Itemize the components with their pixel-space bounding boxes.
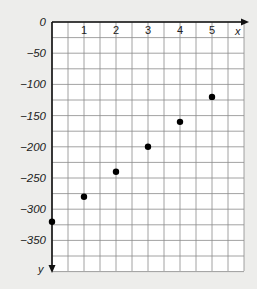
y-tick-labels: 0−50−100−150−200−250−300−350: [20, 16, 47, 246]
y-tick-label: −200: [20, 141, 47, 153]
x-tick-label: 2: [113, 24, 119, 36]
data-point: [177, 119, 183, 125]
data-point: [209, 94, 215, 100]
data-point: [81, 194, 87, 200]
y-axis-label: y: [37, 263, 45, 275]
y-tick-label: −100: [20, 78, 47, 90]
y-tick-label: −250: [20, 172, 47, 184]
data-point: [145, 144, 151, 150]
x-axis-label: x: [234, 25, 241, 37]
data-point: [49, 218, 55, 224]
data-point: [113, 169, 119, 175]
y-tick-label: −50: [26, 47, 46, 59]
x-tick-label: 4: [177, 24, 183, 36]
y-tick-label: −150: [20, 110, 47, 122]
y-tick-label: 0: [40, 16, 47, 28]
x-tick-label: 3: [145, 24, 151, 36]
y-tick-label: −300: [20, 203, 47, 215]
x-tick-label: 5: [209, 24, 215, 36]
x-axis-arrow-icon: [241, 19, 249, 26]
y-tick-label: −350: [20, 234, 47, 246]
x-tick-label: 1: [81, 24, 87, 36]
scatter-chart: 0−50−100−150−200−250−300−350 12345 x y: [0, 0, 257, 289]
